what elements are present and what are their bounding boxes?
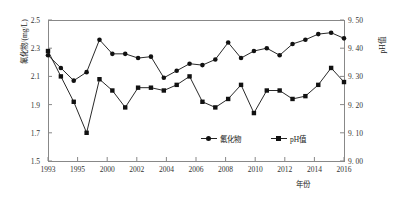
square-marker-icon xyxy=(276,136,281,141)
legend-swatch-fluoride xyxy=(201,138,217,139)
x-tick-label: 2010 xyxy=(248,165,263,174)
x-tick-label: 2000 xyxy=(100,165,115,174)
legend-item-ph: pH值 xyxy=(271,133,306,144)
x-tick-label: 1995 xyxy=(70,165,85,174)
x-tick-label: 1993 xyxy=(41,165,56,174)
x-tick-label: 2004 xyxy=(159,165,174,174)
legend-label-fluoride: 氟化物 xyxy=(220,133,241,144)
x-tick-label: 2016 xyxy=(337,165,352,174)
legend-swatch-ph xyxy=(271,138,287,139)
circle-marker-icon xyxy=(206,136,211,141)
x-tick-label: 2008 xyxy=(218,165,233,174)
fluoride-ph-line-chart: 氟化物/(mg/L) pH值 年份 1.51.71.92.12.32.5 9. … xyxy=(0,0,401,204)
x-axis-ticks: 1993199520002002200420062008201020122014… xyxy=(0,0,401,204)
x-tick-label: 2006 xyxy=(189,165,204,174)
x-tick-label: 2014 xyxy=(307,165,322,174)
legend-label-ph: pH值 xyxy=(290,133,306,144)
legend-item-fluoride: 氟化物 xyxy=(201,133,241,144)
x-tick-label: 2012 xyxy=(277,165,292,174)
x-tick-label: 2002 xyxy=(129,165,144,174)
